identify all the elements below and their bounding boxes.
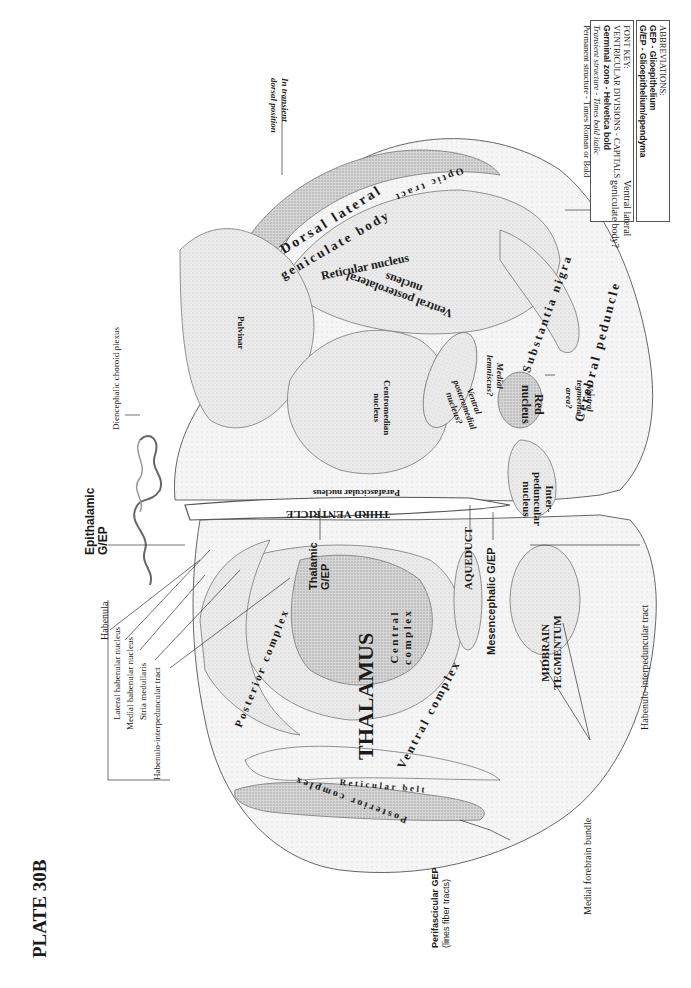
abbreviation-line: GEP - Glioepithelium bbox=[647, 25, 657, 158]
label-ventral-tegmental-area: Ventral tegmental area? bbox=[564, 380, 595, 417]
label-thalamus: THALAMUS bbox=[355, 633, 377, 760]
label-epithalamic-gep: Epithalamic G/EP bbox=[84, 488, 109, 555]
label-thalamic-gep: Thalamic G/EP bbox=[308, 542, 331, 590]
label-medial-lemniscus: Medial lemniscus? bbox=[484, 355, 505, 397]
callout-medial-habenular: Medial habenular nucleus bbox=[126, 637, 135, 730]
label-centromedian: Centromedian nucleus bbox=[371, 380, 392, 435]
font-key-line: Transient structure - Times bold italic bbox=[592, 25, 602, 178]
abbreviation-line: G/EP - Glioepithelium/ependyma bbox=[637, 25, 647, 158]
font-key-heading: FONT KEY: bbox=[621, 25, 631, 178]
callout-vlgb: Ventral lateral geniculate body? bbox=[610, 180, 633, 248]
label-mesencephalic-gep: Mesencephalic G/EP bbox=[486, 547, 497, 655]
callout-stria-medullaris: Stria medullaris bbox=[139, 663, 148, 720]
callout-habenula: Habenula bbox=[100, 602, 110, 640]
choroid-plexus-drawing bbox=[134, 436, 161, 585]
label-interpeduncular: Inter- peduncular nucleus bbox=[520, 472, 555, 526]
label-in-transient: In transient dorsal position bbox=[268, 78, 290, 133]
font-key-line: VENTRICULAR DIVISIONS - CAPITALS bbox=[611, 25, 621, 178]
callout-habenulo-ip-right: Habenulo-interpeduncular tract bbox=[640, 605, 650, 730]
label-aqueduct: AQUEDUCT bbox=[463, 527, 474, 590]
plate-title: PLATE 30B bbox=[30, 860, 49, 958]
abbreviations-box: ABBREVIATIONS: GEP - Glioepithelium G/EP… bbox=[636, 20, 670, 222]
label-red-nucleus: Red nucleus bbox=[520, 385, 545, 424]
callout-habenulo-ip-left: Habenulo-interpeduncular tract bbox=[153, 667, 162, 780]
callout-lateral-habenular: Lateral habenular nucleus bbox=[113, 627, 122, 720]
abbreviations-heading: ABBREVIATIONS: bbox=[657, 25, 667, 158]
font-key-line: Permanent structure - Times Roman or Bol… bbox=[582, 25, 592, 178]
callout-medial-forebrain: Medial forebrain bundle bbox=[583, 818, 593, 915]
callout-perifascicular-gep: Perifascicular GEP (lines fiber tracts) bbox=[430, 867, 452, 948]
font-key-line: Germinal zone - Helvetica bold bbox=[601, 25, 611, 178]
label-central-complex: Central complex bbox=[388, 608, 414, 665]
label-pulvinar: Pulvinar bbox=[236, 316, 245, 350]
label-parafascicular: Parafascicular nucleus bbox=[313, 488, 400, 497]
label-third-ventricle: THIRD VENTRICLE bbox=[286, 509, 390, 520]
label-midbrain-tegmentum: MIDBRAIN TEGMENTUM bbox=[540, 615, 563, 690]
callout-choroid-plexus: Diencephalic choroid plexus bbox=[112, 327, 121, 430]
